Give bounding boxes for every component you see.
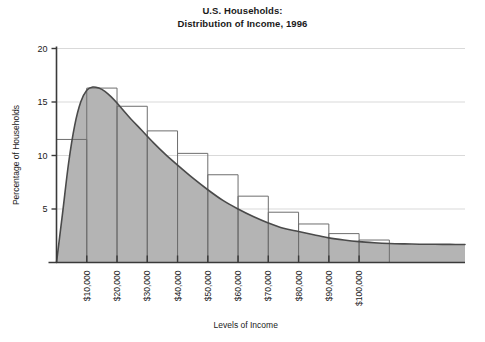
x-axis-tick-label: $10,000 [82, 270, 92, 301]
x-axis-tick-label: $80,000 [294, 270, 304, 301]
y-axis-tick-label: 20 [37, 44, 47, 54]
area-fill-path [57, 87, 466, 263]
distribution-area-fill [57, 87, 466, 263]
chart-container: U.S. Households: Distribution of Income,… [0, 0, 485, 342]
x-axis-tick-label: $20,000 [112, 270, 122, 301]
x-axis-tick-label: $50,000 [203, 270, 213, 301]
y-axis-tick-label: 15 [37, 97, 47, 107]
x-axis-tick-label: $30,000 [142, 270, 152, 301]
x-axis-tick-label: $40,000 [173, 270, 183, 301]
chart-plot-area: 5101520 $10,000$20,000$30,000$40,000$50,… [0, 0, 485, 342]
y-axis-title: Percentage of Households [11, 105, 21, 205]
x-axis-tick-label: $70,000 [263, 270, 273, 301]
y-axis-tick-labels: 5101520 [37, 44, 47, 215]
x-axis-tick-labels: $10,000$20,000$30,000$40,000$50,000$60,0… [82, 270, 364, 306]
x-axis-tick-label: $100,000 [354, 270, 364, 306]
y-axis-tick-label: 5 [42, 204, 47, 214]
y-axis-tick-label: 10 [37, 151, 47, 161]
x-axis-tick-label: $90,000 [324, 270, 334, 301]
x-axis-title: Levels of Income [214, 320, 279, 330]
x-axis-tick-label: $60,000 [233, 270, 243, 301]
